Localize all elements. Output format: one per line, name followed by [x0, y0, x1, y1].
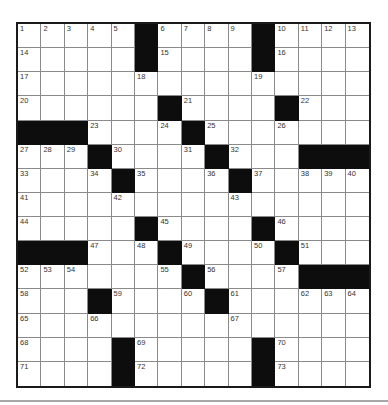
answer-cell[interactable] — [135, 145, 158, 169]
answer-cell[interactable]: 13 — [346, 24, 369, 48]
answer-cell[interactable]: 49 — [182, 241, 205, 265]
answer-cell[interactable]: 63 — [322, 289, 345, 313]
answer-cell[interactable]: 5 — [112, 24, 135, 48]
answer-cell[interactable] — [88, 265, 111, 289]
answer-cell[interactable]: 33 — [18, 169, 41, 193]
answer-cell[interactable]: 65 — [18, 314, 41, 338]
answer-cell[interactable]: 40 — [346, 169, 369, 193]
answer-cell[interactable] — [158, 338, 181, 362]
answer-cell[interactable]: 51 — [299, 241, 322, 265]
answer-cell[interactable]: 71 — [18, 362, 41, 386]
answer-cell[interactable]: 23 — [88, 121, 111, 145]
answer-cell[interactable]: 43 — [229, 193, 252, 217]
answer-cell[interactable] — [88, 96, 111, 120]
answer-cell[interactable]: 25 — [205, 121, 228, 145]
answer-cell[interactable] — [205, 72, 228, 96]
answer-cell[interactable] — [158, 72, 181, 96]
answer-cell[interactable] — [252, 96, 275, 120]
answer-cell[interactable] — [229, 96, 252, 120]
answer-cell[interactable] — [229, 241, 252, 265]
answer-cell[interactable]: 20 — [18, 96, 41, 120]
answer-cell[interactable] — [112, 96, 135, 120]
answer-cell[interactable] — [112, 265, 135, 289]
answer-cell[interactable]: 2 — [41, 24, 64, 48]
answer-cell[interactable] — [65, 169, 88, 193]
answer-cell[interactable] — [346, 72, 369, 96]
answer-cell[interactable]: 57 — [275, 265, 298, 289]
answer-cell[interactable] — [229, 338, 252, 362]
answer-cell[interactable] — [229, 362, 252, 386]
answer-cell[interactable] — [182, 338, 205, 362]
answer-cell[interactable]: 50 — [252, 241, 275, 265]
answer-cell[interactable]: 45 — [158, 217, 181, 241]
answer-cell[interactable] — [112, 121, 135, 145]
answer-cell[interactable] — [252, 289, 275, 313]
answer-cell[interactable]: 64 — [346, 289, 369, 313]
answer-cell[interactable]: 3 — [65, 24, 88, 48]
answer-cell[interactable]: 62 — [299, 289, 322, 313]
answer-cell[interactable]: 52 — [18, 265, 41, 289]
answer-cell[interactable] — [229, 217, 252, 241]
answer-cell[interactable] — [112, 48, 135, 72]
answer-cell[interactable] — [346, 96, 369, 120]
answer-cell[interactable] — [322, 72, 345, 96]
answer-cell[interactable] — [322, 96, 345, 120]
answer-cell[interactable]: 15 — [158, 48, 181, 72]
answer-cell[interactable]: 18 — [135, 72, 158, 96]
answer-cell[interactable] — [322, 193, 345, 217]
answer-cell[interactable]: 56 — [205, 265, 228, 289]
answer-cell[interactable]: 47 — [88, 241, 111, 265]
answer-cell[interactable] — [135, 193, 158, 217]
answer-cell[interactable] — [275, 314, 298, 338]
answer-cell[interactable]: 19 — [252, 72, 275, 96]
answer-cell[interactable]: 36 — [205, 169, 228, 193]
answer-cell[interactable] — [322, 362, 345, 386]
answer-cell[interactable]: 72 — [135, 362, 158, 386]
answer-cell[interactable] — [88, 362, 111, 386]
answer-cell[interactable] — [229, 265, 252, 289]
answer-cell[interactable] — [182, 217, 205, 241]
answer-cell[interactable] — [41, 338, 64, 362]
answer-cell[interactable]: 41 — [18, 193, 41, 217]
answer-cell[interactable] — [205, 217, 228, 241]
answer-cell[interactable] — [135, 96, 158, 120]
answer-cell[interactable]: 4 — [88, 24, 111, 48]
answer-cell[interactable] — [88, 193, 111, 217]
answer-cell[interactable] — [65, 289, 88, 313]
answer-cell[interactable] — [158, 169, 181, 193]
answer-cell[interactable] — [182, 362, 205, 386]
answer-cell[interactable]: 69 — [135, 338, 158, 362]
answer-cell[interactable] — [65, 96, 88, 120]
answer-cell[interactable] — [299, 48, 322, 72]
answer-cell[interactable]: 32 — [229, 145, 252, 169]
answer-cell[interactable] — [205, 314, 228, 338]
answer-cell[interactable]: 8 — [205, 24, 228, 48]
answer-cell[interactable] — [65, 193, 88, 217]
answer-cell[interactable] — [158, 193, 181, 217]
answer-cell[interactable] — [135, 289, 158, 313]
answer-cell[interactable]: 54 — [65, 265, 88, 289]
answer-cell[interactable] — [41, 96, 64, 120]
answer-cell[interactable]: 17 — [18, 72, 41, 96]
answer-cell[interactable]: 38 — [299, 169, 322, 193]
answer-cell[interactable] — [275, 193, 298, 217]
answer-cell[interactable] — [158, 362, 181, 386]
answer-cell[interactable] — [205, 362, 228, 386]
answer-cell[interactable] — [229, 121, 252, 145]
answer-cell[interactable]: 67 — [229, 314, 252, 338]
answer-cell[interactable] — [135, 121, 158, 145]
answer-cell[interactable]: 27 — [18, 145, 41, 169]
answer-cell[interactable] — [252, 145, 275, 169]
answer-cell[interactable] — [252, 193, 275, 217]
answer-cell[interactable] — [65, 338, 88, 362]
answer-cell[interactable] — [275, 72, 298, 96]
answer-cell[interactable] — [346, 121, 369, 145]
answer-cell[interactable] — [229, 48, 252, 72]
answer-cell[interactable] — [346, 314, 369, 338]
answer-cell[interactable] — [299, 362, 322, 386]
answer-cell[interactable]: 21 — [182, 96, 205, 120]
answer-cell[interactable]: 59 — [112, 289, 135, 313]
answer-cell[interactable] — [205, 193, 228, 217]
answer-cell[interactable] — [322, 121, 345, 145]
answer-cell[interactable] — [182, 193, 205, 217]
